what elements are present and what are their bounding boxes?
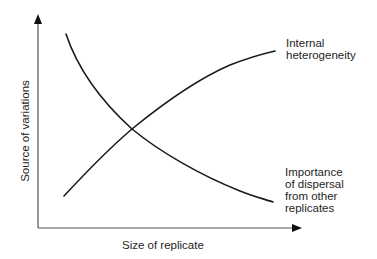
y-axis-label: Source of variations bbox=[19, 80, 31, 182]
x-axis-label: Size of replicate bbox=[122, 239, 204, 251]
y-axis-arrow-icon bbox=[34, 14, 42, 24]
label-line: from other bbox=[285, 190, 344, 202]
curve-internal-heterogeneity bbox=[64, 51, 275, 196]
curve-label-importance-of-dispersal: Importance of dispersal from other repli… bbox=[285, 166, 344, 214]
label-line: Internal bbox=[286, 37, 356, 49]
curve-label-internal-heterogeneity: Internal heterogeneity bbox=[286, 37, 356, 61]
label-line: Importance bbox=[285, 166, 344, 178]
x-axis-arrow-icon bbox=[292, 224, 302, 232]
label-line: replicates bbox=[285, 202, 344, 214]
label-line: of dispersal bbox=[285, 178, 344, 190]
curve-importance-of-dispersal bbox=[66, 34, 273, 202]
label-line: heterogeneity bbox=[286, 49, 356, 61]
